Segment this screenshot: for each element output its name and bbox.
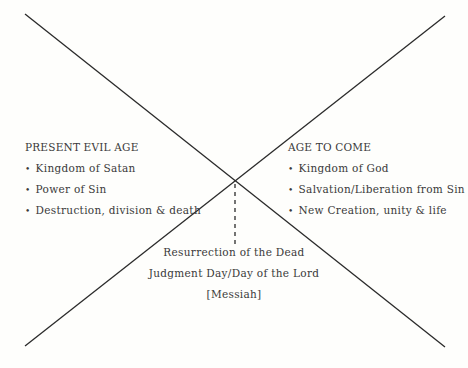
present-evil-age-heading: PRESENT EVIL AGE (25, 137, 201, 158)
present-evil-age-block: PRESENT EVIL AGE Kingdom of Satan Power … (25, 137, 201, 221)
transition-line: Resurrection of the Dead (0, 242, 468, 263)
list-item: Kingdom of God (288, 158, 465, 179)
age-to-come-heading: AGE TO COME (288, 137, 465, 158)
list-item: Salvation/Liberation from Sin (288, 179, 465, 200)
list-item: Destruction, division & death (25, 200, 201, 221)
list-item: Kingdom of Satan (25, 158, 201, 179)
transition-line: Judgment Day/Day of the Lord (0, 263, 468, 284)
list-item: Power of Sin (25, 179, 201, 200)
transition-events-block: Resurrection of the Dead Judgment Day/Da… (0, 242, 468, 305)
age-to-come-block: AGE TO COME Kingdom of God Salvation/Lib… (288, 137, 465, 221)
transition-line: [Messiah] (0, 284, 468, 305)
list-item: New Creation, unity & life (288, 200, 465, 221)
